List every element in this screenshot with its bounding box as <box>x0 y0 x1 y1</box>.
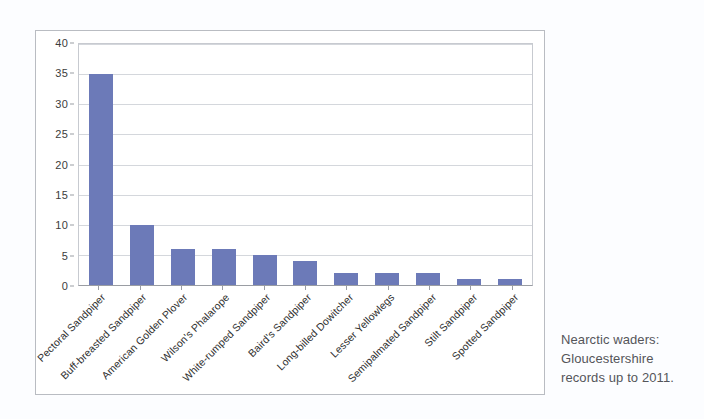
bar[interactable] <box>253 255 277 285</box>
caption-line-2: Gloucestershire <box>561 349 704 368</box>
caption-line-1: Nearctic waders: <box>561 330 704 349</box>
y-axis-tick-mark <box>70 255 74 256</box>
y-axis-tick-label: 25 <box>55 128 68 140</box>
y-axis-tick-mark <box>70 225 74 226</box>
bar-slot <box>448 44 489 285</box>
bar[interactable] <box>212 249 236 285</box>
y-axis-tick-mark <box>70 43 74 44</box>
x-axis-category-label: Pectoral Sandpiper <box>34 291 107 364</box>
bar-slot <box>326 44 367 285</box>
y-axis-tick-label: 0 <box>62 280 68 292</box>
y-axis-tick-label: 5 <box>62 250 68 262</box>
bar-slot <box>163 44 204 285</box>
bar[interactable] <box>498 279 522 285</box>
bar-slot <box>81 44 122 285</box>
bar-slot <box>367 44 408 285</box>
chart-frame: 0510152025303540 Pectoral SandpiperBuff-… <box>35 30 545 395</box>
bar[interactable] <box>334 273 358 285</box>
plot-wrap: 0510152025303540 <box>78 43 533 286</box>
x-axis-labels: Pectoral SandpiperBuff-breasted Sandpipe… <box>78 289 533 389</box>
bar-slot <box>122 44 163 285</box>
bar[interactable] <box>293 261 317 285</box>
bar[interactable] <box>130 225 154 285</box>
plot-area <box>78 43 533 286</box>
y-axis-tick-mark <box>70 194 74 195</box>
y-axis-tick-mark <box>70 103 74 104</box>
bar[interactable] <box>375 273 399 285</box>
y-axis-tick-mark <box>70 164 74 165</box>
bar-slot <box>489 44 530 285</box>
x-axis-label-slot: Spotted Sandpiper <box>492 289 533 389</box>
caption-line-3: records up to 2011. <box>561 368 704 387</box>
y-axis-tick-mark <box>70 286 74 287</box>
bar[interactable] <box>457 279 481 285</box>
bar-slot <box>203 44 244 285</box>
bar[interactable] <box>171 249 195 285</box>
y-axis-tick-label: 15 <box>55 189 68 201</box>
bar[interactable] <box>416 273 440 285</box>
bar-slot <box>408 44 449 285</box>
y-axis-tick-label: 10 <box>55 219 68 231</box>
chart-caption: Nearctic waders: Gloucestershire records… <box>561 330 704 387</box>
bar-series <box>79 44 532 285</box>
bar[interactable] <box>89 74 113 285</box>
y-axis-tick-mark <box>70 73 74 74</box>
y-axis-tick-label: 35 <box>55 67 68 79</box>
y-axis-tick-mark <box>70 134 74 135</box>
y-axis-tick-label: 30 <box>55 98 68 110</box>
bar-slot <box>244 44 285 285</box>
y-axis-tick-label: 40 <box>55 37 68 49</box>
y-axis-tick-label: 20 <box>55 159 68 171</box>
bar-slot <box>285 44 326 285</box>
y-axis: 0510152025303540 <box>44 43 74 286</box>
